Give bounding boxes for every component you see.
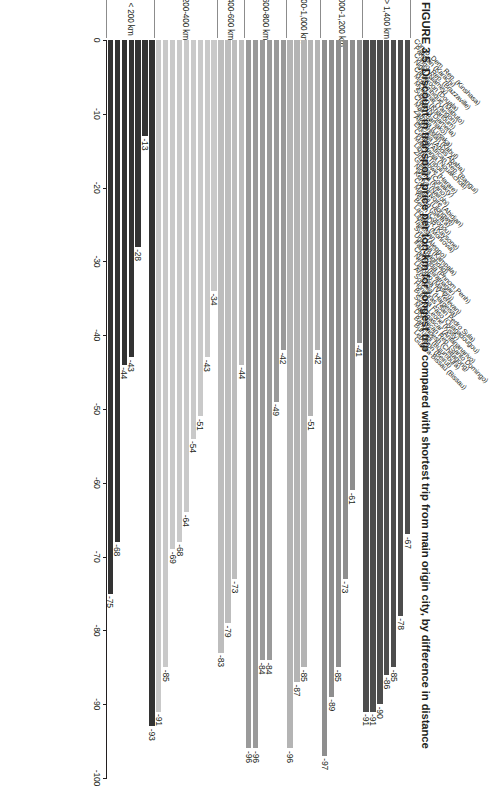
group-divider — [244, 0, 245, 38]
bar-row: -87 — [294, 40, 301, 778]
bar — [253, 40, 258, 748]
group-divider — [320, 0, 321, 38]
axis-tick-label: -30 — [92, 255, 102, 267]
bar — [129, 40, 134, 357]
bar-row: -73 — [231, 40, 238, 778]
group-band: 800-1,000 km — [287, 0, 322, 38]
bar — [370, 40, 375, 712]
bar-row: -43 — [204, 40, 211, 778]
bar-row: -96 — [245, 40, 252, 778]
group-divider — [154, 0, 155, 38]
bar — [163, 40, 168, 667]
axis-tick-label: -40 — [92, 329, 102, 341]
group-divider — [106, 0, 107, 38]
bar — [267, 40, 272, 660]
bar-row: -43 — [128, 40, 135, 778]
axis-tick-label: -90 — [92, 698, 102, 710]
bar-row: -44 — [121, 40, 128, 778]
bar — [142, 40, 147, 136]
bar — [122, 40, 127, 365]
bar-row: -51 — [197, 40, 204, 778]
bar — [246, 40, 251, 748]
axis-tick-label: -20 — [92, 182, 102, 194]
bar — [357, 40, 362, 343]
bar — [377, 40, 382, 704]
axis-tick-label: -80 — [92, 624, 102, 636]
bar-row: -41 — [356, 40, 363, 778]
value-axis-ticks: 0-10-20-30-40-50-60-70-80-90-100 — [85, 40, 107, 778]
group-divider — [410, 0, 411, 38]
group-band-label: 400-600 km — [226, 0, 236, 40]
bar-row: -75 — [107, 40, 114, 778]
group-band: 400-600 km — [218, 0, 246, 38]
axis-tick — [104, 630, 108, 631]
bar-row: -54 — [190, 40, 197, 778]
category-label-axis: Congo, Dem. Rep. (Kinshasa)Pakistan (Kar… — [411, 40, 439, 778]
axis-tick — [104, 261, 108, 262]
bar-row: -84 — [259, 40, 266, 778]
group-band-label: 600-800 km — [261, 0, 271, 40]
bar-row: -64 — [183, 40, 190, 778]
bar — [322, 40, 327, 756]
bar-row: -61 — [349, 40, 356, 778]
axis-tick — [104, 335, 108, 336]
bar-row: -85 — [162, 40, 169, 778]
axis-tick-label: -10 — [92, 108, 102, 120]
bar — [170, 40, 175, 549]
bar-row: -97 — [321, 40, 328, 778]
bar — [350, 40, 355, 490]
group-band-label: 800-1,000 km — [299, 0, 309, 43]
bar-row: -79 — [224, 40, 231, 778]
bar — [287, 40, 292, 748]
bar — [391, 40, 396, 667]
axis-tick-label: -50 — [92, 403, 102, 415]
bar-series: -67-78-85-86-90-91-91-41-61-73-85-89-97-… — [107, 40, 411, 778]
bar — [398, 40, 403, 616]
axis-tick-label: -100 — [92, 770, 102, 786]
group-divider — [286, 0, 287, 38]
bar — [329, 40, 334, 697]
bar — [135, 40, 140, 247]
bar — [211, 40, 216, 291]
bar — [184, 40, 189, 512]
group-band-label: > 1,400 km — [382, 0, 392, 39]
group-band-label: < 200 km — [126, 2, 136, 35]
bar-row: -91 — [363, 40, 370, 778]
bar-row: -91 — [370, 40, 377, 778]
bar-row: -96 — [287, 40, 294, 778]
bar — [336, 40, 341, 667]
bar-row: -86 — [383, 40, 390, 778]
bar — [239, 40, 244, 365]
bar-row: -67 — [404, 40, 411, 778]
bar-row: -96 — [252, 40, 259, 778]
bar — [177, 40, 182, 542]
group-divider — [362, 0, 363, 38]
bar — [301, 40, 306, 667]
bar-row: -85 — [335, 40, 342, 778]
bar — [274, 40, 279, 402]
group-band: > 1,400 km — [363, 0, 411, 38]
group-band-label: 200-400 km — [181, 0, 191, 40]
bar — [405, 40, 410, 534]
bar — [205, 40, 210, 357]
bar-row: -91 — [155, 40, 162, 778]
bar — [149, 40, 154, 726]
bar-row: -68 — [176, 40, 183, 778]
axis-tick — [104, 40, 108, 41]
bar — [108, 40, 113, 594]
bar-row: -68 — [114, 40, 121, 778]
group-band: < 200 km — [107, 0, 155, 38]
bar-row: -28 — [135, 40, 142, 778]
bar-row: -90 — [376, 40, 383, 778]
bar-row: -42 — [314, 40, 321, 778]
group-band: 1,000-1,200 km — [321, 0, 362, 38]
bar — [218, 40, 223, 653]
bar — [363, 40, 368, 712]
bar — [384, 40, 389, 675]
bar — [281, 40, 286, 350]
bar — [115, 40, 120, 542]
axis-tick — [104, 778, 108, 779]
group-divider — [217, 0, 218, 38]
bar — [294, 40, 299, 682]
